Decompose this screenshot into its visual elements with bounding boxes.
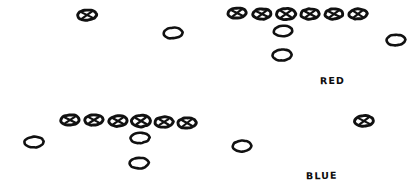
marker-ring: [24, 136, 44, 148]
blue-team-label: BLUE: [306, 170, 338, 182]
player-marker[interactable]: [129, 157, 149, 169]
player-marker[interactable]: [163, 27, 183, 39]
player-marker[interactable]: [130, 132, 150, 143]
marker-ring: [163, 27, 183, 39]
player-marker[interactable]: [252, 8, 271, 19]
player-marker[interactable]: [349, 8, 368, 19]
player-marker[interactable]: [228, 7, 247, 18]
marker-ring: [232, 140, 251, 152]
player-marker[interactable]: [232, 140, 251, 152]
player-marker[interactable]: [60, 114, 79, 125]
player-marker[interactable]: [109, 115, 128, 127]
player-marker[interactable]: [85, 114, 104, 125]
player-marker[interactable]: [24, 136, 44, 148]
player-marker[interactable]: [272, 49, 292, 61]
player-marker[interactable]: [276, 8, 296, 20]
marker-layer: [0, 0, 418, 192]
player-marker[interactable]: [77, 9, 97, 20]
player-marker[interactable]: [354, 115, 374, 127]
play-diagram-canvas: RED BLUE: [0, 0, 418, 192]
red-team-label: RED: [320, 75, 345, 87]
player-marker[interactable]: [273, 25, 292, 37]
player-marker[interactable]: [131, 115, 150, 127]
marker-ring: [272, 49, 292, 61]
player-marker[interactable]: [301, 8, 320, 19]
player-marker[interactable]: [178, 117, 197, 129]
player-marker[interactable]: [155, 116, 174, 127]
player-marker[interactable]: [325, 8, 343, 20]
player-marker[interactable]: [386, 34, 405, 45]
marker-ring: [386, 34, 405, 45]
marker-ring: [129, 157, 149, 169]
marker-ring: [273, 25, 292, 37]
marker-ring: [130, 132, 150, 143]
